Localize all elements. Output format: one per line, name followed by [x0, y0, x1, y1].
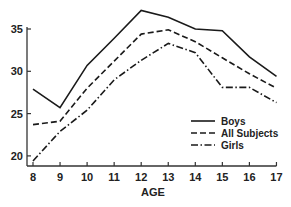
series-boys-line [33, 10, 277, 107]
x-tick-label: 13 [162, 171, 174, 183]
y-tick-label: 25 [11, 108, 23, 120]
x-tick-label: 10 [81, 171, 93, 183]
x-tick-label: 17 [270, 171, 282, 183]
y-tick-label: 35 [11, 23, 23, 35]
x-tick-label: 11 [108, 171, 120, 183]
x-tick-label: 14 [189, 171, 202, 183]
y-tick-label: 20 [11, 150, 23, 162]
legend: BoysAll SubjectsGirls [191, 116, 279, 151]
line-chart: 20253035891011121314151617 BoysAll Subje… [0, 0, 291, 207]
legend-label: Girls [221, 140, 244, 151]
x-tick-label: 15 [216, 171, 228, 183]
y-tick-label: 30 [11, 65, 23, 77]
axes: 20253035891011121314151617 [11, 23, 283, 183]
series-all-subjects-line [33, 30, 277, 125]
legend-label: Boys [221, 116, 246, 127]
legend-label: All Subjects [221, 128, 279, 139]
x-axis-label: AGE [141, 186, 165, 198]
x-tick-label: 12 [135, 171, 147, 183]
x-tick-label: 8 [30, 171, 36, 183]
x-tick-label: 16 [243, 171, 255, 183]
x-tick-label: 9 [57, 171, 63, 183]
